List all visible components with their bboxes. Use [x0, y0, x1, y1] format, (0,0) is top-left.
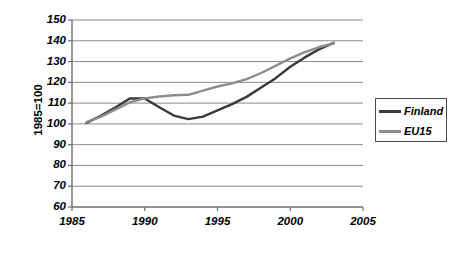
legend-item-eu15: EU15 — [379, 123, 432, 139]
y-tick-140: 140 — [32, 35, 66, 47]
y-tick-70: 70 — [32, 180, 66, 192]
y-tick-130: 130 — [32, 56, 66, 68]
y-tick-100: 100 — [32, 118, 66, 130]
x-tick-2000: 2000 — [265, 216, 315, 228]
y-tick-60: 60 — [32, 201, 66, 213]
line-chart: 1985=100 60708090100110120130140150 1985… — [0, 0, 470, 256]
legend-label-finland: Finland — [404, 105, 443, 117]
data-series — [87, 43, 334, 123]
legend: Finland EU15 — [375, 98, 447, 142]
legend-swatch-finland — [379, 110, 401, 113]
x-tick-1990: 1990 — [120, 216, 170, 228]
x-tick-1995: 1995 — [193, 216, 243, 228]
legend-item-finland: Finland — [379, 103, 443, 119]
y-tick-80: 80 — [32, 159, 66, 171]
y-tick-90: 90 — [32, 139, 66, 151]
y-axis-title: 1985=100 — [32, 50, 44, 170]
gridlines — [72, 20, 363, 186]
y-tick-120: 120 — [32, 76, 66, 88]
y-tick-110: 110 — [32, 97, 66, 109]
legend-swatch-eu15 — [379, 130, 401, 133]
x-tick-1985: 1985 — [47, 216, 97, 228]
y-tick-150: 150 — [32, 14, 66, 26]
x-tick-2005: 2005 — [338, 216, 388, 228]
legend-label-eu15: EU15 — [404, 125, 432, 137]
